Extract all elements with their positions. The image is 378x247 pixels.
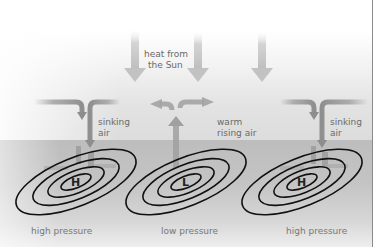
right-pressure-center-letter: H [297, 177, 306, 189]
middle-air-label-line1: warm [217, 117, 256, 128]
sun-heat-label: heat from the Sun [144, 49, 188, 71]
right-air-label-line2: air [330, 128, 362, 139]
middle-air-label: warm rising air [217, 117, 256, 139]
sun-heat-label-line1: heat from [144, 49, 188, 60]
middle-pressure-label: low pressure [161, 226, 218, 237]
left-pressure-label: high pressure [31, 226, 92, 237]
middle-pressure-center-letter: L [182, 177, 189, 189]
sun-heat-arrow-2 [187, 30, 209, 82]
sun-heat-arrow-3 [251, 30, 273, 82]
left-pressure-center-letter: H [71, 177, 80, 189]
left-air-label-line2: air [98, 128, 130, 139]
right-air-label-line1: sinking [330, 117, 362, 128]
right-air-label: sinking air [330, 117, 362, 139]
middle-air-label-line2: rising air [217, 128, 256, 139]
left-air-label-line1: sinking [98, 117, 130, 128]
sun-heat-arrow-1 [124, 28, 146, 82]
diagram-art [0, 0, 378, 247]
sun-heat-label-line2: the Sun [144, 60, 188, 71]
pressure-diagram: heat from the Sun sinking air warm risin… [0, 0, 378, 247]
right-pressure-label: high pressure [286, 226, 347, 237]
left-air-label: sinking air [98, 117, 130, 139]
